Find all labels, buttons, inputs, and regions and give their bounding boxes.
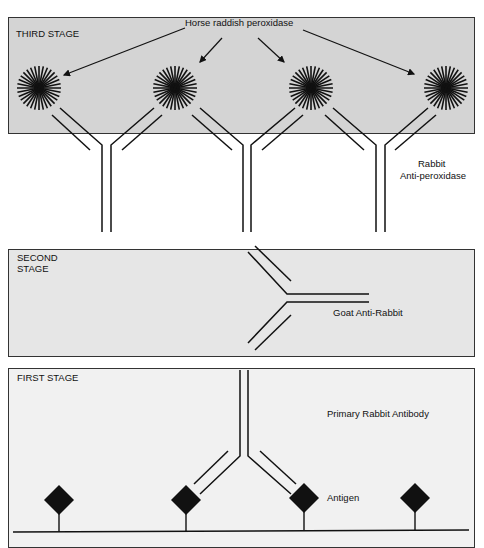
anti-peroxidase-label: Anti-peroxidase <box>400 170 466 181</box>
goat-anti-rabbit-antibody <box>248 246 369 350</box>
antigens <box>44 483 430 532</box>
peroxidase-label: Horse raddish peroxidase <box>185 17 293 28</box>
second-stage-label-line2: STAGE <box>17 263 49 274</box>
primary-rabbit-antibody <box>194 370 296 494</box>
goat-anti-rabbit-label: Goat Anti-Rabbit <box>333 307 403 318</box>
first-stage-label: FIRST STAGE <box>17 372 78 383</box>
rabbit-anti-peroxidase-antibodies <box>52 108 436 232</box>
second-stage-label-line1: SECOND <box>17 252 58 263</box>
antigen-label: Antigen <box>327 492 359 503</box>
rabbit-label: Rabbit <box>418 158 445 169</box>
enzyme-pointer-arrows <box>64 28 414 75</box>
cell-surface-line <box>13 530 469 532</box>
primary-antibody-label: Primary Rabbit Antibody <box>327 408 429 419</box>
peroxidase-starbursts <box>17 66 468 110</box>
third-stage-label: THIRD STAGE <box>16 28 79 39</box>
